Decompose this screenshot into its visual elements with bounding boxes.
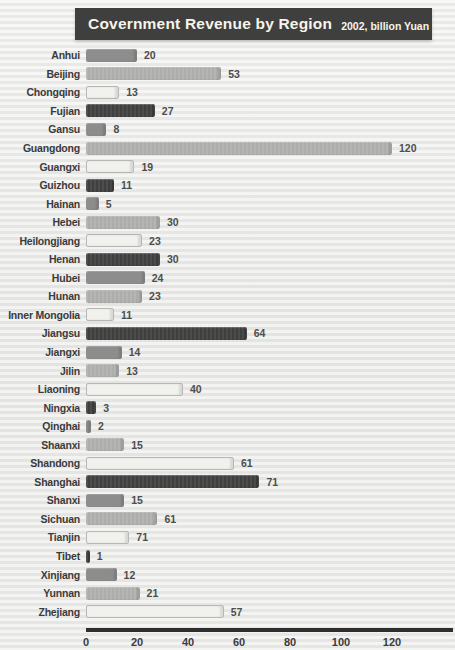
region-label: Yunnan (0, 587, 80, 599)
value-label: 30 (167, 216, 179, 228)
bar-row: Shandong61 (0, 454, 455, 473)
bar-anhui (86, 49, 137, 62)
chart-subtitle: 2002, billion Yuan (341, 17, 429, 32)
region-label: Guangdong (0, 142, 80, 154)
bar-row: Hebei30 (0, 213, 455, 232)
chart-title-bar: Covernment Revenue by Region 2002, billi… (75, 8, 432, 40)
region-label: Hubei (0, 272, 80, 284)
value-label: 27 (162, 105, 174, 117)
bar-row: Liaoning40 (0, 380, 455, 399)
region-label: Qinghai (0, 420, 80, 432)
bar-qinghai (86, 420, 91, 433)
bar-row: Guizhou11 (0, 176, 455, 195)
bar-row: Qinghai2 (0, 417, 455, 436)
bar-row: Chongqing13 (0, 83, 455, 102)
x-axis-line (86, 628, 453, 632)
region-label: Guangxi (0, 161, 80, 173)
bar-ningxia (86, 401, 96, 414)
region-label: Guizhou (0, 179, 80, 191)
bar-row: Ningxia3 (0, 398, 455, 417)
value-label: 71 (266, 476, 278, 488)
bar-hunan (86, 290, 142, 303)
bar-row: Hainan5 (0, 194, 455, 213)
region-label: Hebei (0, 216, 80, 228)
value-label: 5 (106, 198, 112, 210)
x-tick-label: 0 (83, 636, 89, 648)
bar-row: Gansu8 (0, 120, 455, 139)
bar-sichuan (86, 512, 157, 525)
bar-row: Shanghai71 (0, 473, 455, 492)
bar-row: Guangdong120 (0, 139, 455, 158)
bar-jiangxi (86, 346, 122, 359)
region-label: Jilin (0, 365, 80, 377)
bar-fujian (86, 104, 155, 117)
bar-guangdong (86, 142, 392, 155)
value-label: 8 (113, 123, 119, 135)
bar-zhejiang (86, 605, 224, 618)
bar-row: Shaanxi15 (0, 435, 455, 454)
region-label: Henan (0, 253, 80, 265)
region-label: Xinjiang (0, 569, 80, 581)
value-label: 11 (121, 309, 132, 321)
bar-shandong (86, 457, 234, 470)
value-label: 1 (97, 550, 103, 562)
bar-row: Xinjiang12 (0, 565, 455, 584)
region-label: Anhui (0, 49, 80, 61)
region-label: Shanghai (0, 476, 80, 488)
bar-row: Tibet1 (0, 547, 455, 566)
value-label: 23 (149, 235, 161, 247)
bar-xinjiang (86, 568, 117, 581)
value-label: 53 (228, 68, 240, 80)
region-label: Hainan (0, 198, 80, 210)
value-label: 30 (167, 253, 179, 265)
bar-rows: Anhui20Beijing53Chongqing13Fujian27Gansu… (0, 46, 455, 621)
region-label: Tibet (0, 550, 80, 562)
x-axis-ticks: 020406080100120 (0, 636, 455, 650)
value-label: 13 (126, 365, 138, 377)
bar-chart: Covernment Revenue by Region 2002, billi… (0, 0, 455, 650)
value-label: 2 (98, 420, 104, 432)
value-label: 3 (103, 402, 109, 414)
bar-row: Henan30 (0, 250, 455, 269)
region-label: Jiangxi (0, 346, 80, 358)
value-label: 13 (126, 86, 138, 98)
value-label: 11 (121, 179, 132, 191)
bar-tibet (86, 550, 90, 563)
x-tick-label: 80 (284, 636, 296, 648)
bar-row: Jiangsu64 (0, 324, 455, 343)
region-label: Zhejiang (0, 606, 80, 618)
value-label: 19 (141, 161, 153, 173)
bar-row: Inner Mongolia11 (0, 306, 455, 325)
bar-shanghai (86, 475, 259, 488)
x-tick-label: 100 (332, 636, 350, 648)
value-label: 15 (131, 494, 143, 506)
bar-row: Hunan23 (0, 287, 455, 306)
bar-heilongjiang (86, 234, 142, 247)
bar-hainan (86, 197, 99, 210)
region-label: Tianjin (0, 531, 80, 543)
bar-row: Anhui20 (0, 46, 455, 65)
bar-yunnan (86, 587, 140, 600)
bar-jilin (86, 364, 119, 377)
bar-shanxi (86, 494, 124, 507)
bar-hebei (86, 216, 160, 229)
region-label: Shandong (0, 457, 80, 469)
bar-guangxi (86, 160, 134, 173)
value-label: 15 (131, 439, 143, 451)
value-label: 21 (147, 587, 159, 599)
bar-row: Heilongjiang23 (0, 231, 455, 250)
bar-beijing (86, 67, 221, 80)
bar-jiangsu (86, 327, 247, 340)
bar-row: Hubei24 (0, 269, 455, 288)
bar-row: Yunnan21 (0, 584, 455, 603)
bar-tianjin (86, 531, 129, 544)
x-tick-label: 60 (233, 636, 245, 648)
bar-shaanxi (86, 438, 124, 451)
value-label: 23 (149, 290, 161, 302)
bar-row: Beijing53 (0, 65, 455, 84)
x-tick-label: 120 (383, 636, 401, 648)
bar-henan (86, 253, 160, 266)
bar-row: Jiangxi14 (0, 343, 455, 362)
value-label: 71 (136, 531, 148, 543)
value-label: 40 (190, 383, 202, 395)
